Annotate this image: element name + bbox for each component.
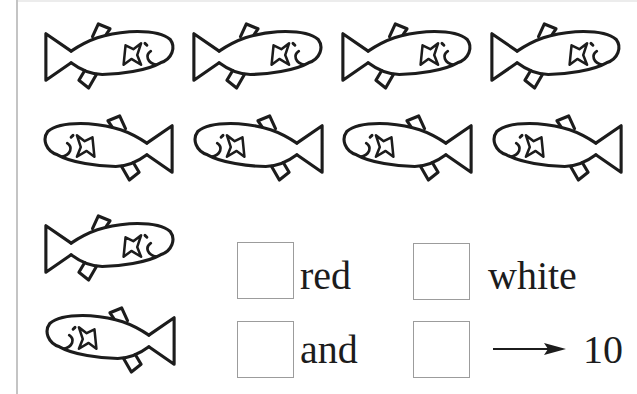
fish-icon [40, 112, 176, 184]
total-count: 10 [583, 330, 623, 370]
fish-icon [42, 212, 178, 284]
right-arrow-icon [492, 342, 568, 356]
fish-icon [339, 20, 475, 92]
label-white: white [488, 256, 577, 296]
fish-icon [489, 112, 625, 184]
fish-icon [42, 20, 178, 92]
answer-box-white[interactable] [413, 243, 470, 300]
fish-icon [42, 304, 178, 376]
page-top-edge [18, 0, 637, 2]
label-and: and [300, 330, 358, 370]
fish-icon [488, 20, 624, 92]
fish-icon [190, 20, 326, 92]
label-red: red [300, 256, 351, 296]
answer-box-total[interactable] [413, 321, 470, 378]
answer-box-and[interactable] [237, 321, 294, 378]
fish-icon [339, 112, 475, 184]
page-left-edge [16, 0, 18, 394]
answer-box-red[interactable] [237, 242, 294, 299]
fish-icon [190, 112, 326, 184]
